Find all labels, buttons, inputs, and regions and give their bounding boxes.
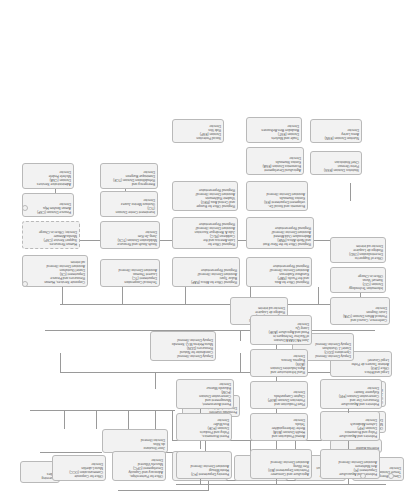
- node-line: Development (OPC): [115, 466, 163, 470]
- node-aga[interactable]: Animal Production and Health Division (A…: [250, 413, 308, 441]
- node-fir[interactable]: Fisheries and Aquaculture Resources Use …: [320, 379, 382, 409]
- node-csa[interactable]: Administrative Services Division (CSA) M…: [22, 163, 74, 189]
- node-title: Assistant Director-General/: [175, 226, 235, 230]
- node-title: Director: [175, 124, 221, 128]
- node-name: Boubaker Ben-Belhassen: [249, 128, 299, 132]
- node-ddg-natural-resources[interactable]: Deputy Director-General Coordinator for …: [150, 331, 216, 361]
- node-line: Regional Office for Europe: [175, 204, 235, 208]
- node-osd[interactable]: Office of Support to Decentralization (O…: [330, 237, 386, 263]
- node-ags[interactable]: Rural Infrastructure and Agro-Industries…: [250, 349, 308, 377]
- node-line: Fisheries and Aquaculture: [323, 434, 377, 438]
- node-line: Regional Office for Asia: [249, 280, 309, 284]
- connector: [122, 287, 123, 305]
- node-rap[interactable]: Regional Office for Asia and the Pacific…: [246, 257, 312, 287]
- node-line: Agro-Industries Division: [253, 366, 305, 370]
- node-tcs[interactable]: South-South and Resource Mobilization Di…: [100, 221, 160, 249]
- node-title: Director-General: [105, 438, 165, 442]
- node-line: Regional Office for Africa (RAF): [175, 280, 237, 284]
- node-fi-department[interactable]: Fisheries and Aquaculture Department (FI…: [320, 449, 380, 479]
- connector: [185, 287, 186, 305]
- node-title: Regional Representative: [175, 188, 235, 192]
- node-title: Director: [313, 128, 359, 132]
- node-name: Eduardo Mansur: [179, 386, 231, 390]
- node-fom[interactable]: Forest Assessment, Management and Conser…: [176, 379, 234, 409]
- node-line: Fisheries and Aquaculture: [323, 472, 377, 476]
- node-foe[interactable]: Forest Economics, Policy and Products Di…: [176, 413, 232, 441]
- node-esp[interactable]: Social Protection Division (ESP) Rob Vos…: [172, 119, 224, 143]
- node-title: Assistant Director-General: [179, 464, 229, 468]
- connector: [60, 353, 61, 373]
- node-title: Director: [179, 418, 229, 422]
- node-cio[interactable]: Information Technology Division (CIO) Sa…: [330, 267, 386, 293]
- node-rlc[interactable]: Regional Office for Latin America and th…: [172, 217, 238, 249]
- node-title: Regional Representative: [249, 264, 309, 268]
- node-line: Legal and Ethics: [333, 370, 389, 374]
- connector: [240, 353, 241, 373]
- node-ag-department[interactable]: Agriculture and Consumer Protection Depa…: [250, 449, 312, 479]
- node-line: velopment Department (ES): [249, 200, 305, 204]
- node-line: Resources Use and: [323, 398, 379, 402]
- node-director-general[interactable]: Jose Graziano da Silva Director-General: [102, 429, 168, 453]
- node-est[interactable]: Trade and Markets Division (EST) Boubake…: [246, 117, 302, 143]
- node-line: Protocol Affairs Division (CPA): [333, 314, 387, 318]
- node-name: Lahsen Ababouch: [323, 422, 377, 426]
- node-line: Agriculture and Consumer: [253, 472, 309, 476]
- connector: [318, 287, 319, 305]
- node-line: of Nuclear Techniques in: [253, 334, 309, 338]
- node-tce[interactable]: Emergency and Rehabilitation Division (T…: [100, 163, 158, 189]
- node-raf[interactable]: Regional Office for Africa (RAF) Bukar T…: [172, 257, 240, 287]
- node-title: Regional Representative: [175, 268, 237, 272]
- node-line: and North Africa (RNE): [249, 238, 311, 242]
- node-opc[interactable]: Office for Partnerships, Advocacy and Ca…: [112, 451, 166, 481]
- node-line: Latin America and the: [175, 238, 235, 242]
- node-line: Nutrition Division (ESN): [313, 136, 359, 140]
- node-name: Laurent Thomas: [103, 272, 157, 276]
- node-reu[interactable]: Regional Office for Europe and Central A…: [172, 181, 238, 211]
- node-tc-department[interactable]: Technical Cooperation Department (TC) La…: [100, 259, 160, 287]
- node-line: Office of Support to: [333, 256, 383, 260]
- connector: [155, 373, 156, 389]
- node-line: Investment Centre Division: [103, 210, 155, 214]
- node-cpa[interactable]: Conference, Council and Protocol Affairs…: [330, 297, 390, 325]
- node-title: Director: [103, 230, 157, 234]
- node-line: South-South and Resource: [103, 242, 157, 246]
- node-line: Resources and Finance: [25, 276, 85, 280]
- connector: [30, 410, 175, 411]
- node-line: Communication (OCC): [55, 470, 103, 474]
- node-fip[interactable]: Fisheries and Aquaculture Policy and Eco…: [320, 411, 380, 441]
- node-name: Rodrigo de Laquiere: [333, 248, 383, 252]
- node-csp[interactable]: Human Resources Support Service (CSP) Mo…: [22, 221, 80, 249]
- node-agp[interactable]: Plant Production and Protection Division…: [250, 381, 308, 409]
- node-title: Regional Representative: [249, 226, 311, 230]
- node-title: Assistant Director-General/: [175, 192, 235, 196]
- node-ess[interactable]: Statistics Division (ESS) Pietro Gennari…: [310, 151, 362, 175]
- node-title: Deputy Director-General: [153, 338, 213, 342]
- node-esn[interactable]: Nutrition Division (ESN) Anna Lartey Dir…: [310, 119, 362, 143]
- node-name: Rodrigo de Laquiere: [233, 310, 285, 314]
- node-name: Clayton Campanhola: [253, 394, 305, 398]
- node-line: Office for Corporate: [55, 474, 103, 478]
- node-tci[interactable]: Investment Centre Division (TCI) Gustavo…: [100, 191, 158, 217]
- node-line: and the Pacific (RAP): [249, 276, 309, 280]
- node-esa[interactable]: Agricultural Development Economics Divis…: [246, 147, 304, 175]
- node-line: Finance Division (CSF): [25, 210, 71, 214]
- node-line: Agricultural Development: [249, 168, 301, 172]
- node-title: Director ad interim: [233, 306, 285, 310]
- node-csf[interactable]: Finance Division (CSF) Aiman Ibrahim Hij…: [22, 193, 74, 217]
- node-es-department[interactable]: Economic and Social De- velopment Depart…: [246, 181, 308, 211]
- node-name: Gustavo Merino Juarez: [103, 202, 155, 206]
- node-line: Social Protection: [175, 136, 221, 140]
- connector: [60, 304, 360, 305]
- node-cs-department[interactable]: Corporate Services, Human Resources and …: [22, 255, 88, 287]
- node-name: Samuel Varas: [333, 278, 383, 282]
- node-fo-department[interactable]: Forestry Department (FO) Hiroto Mitsugi …: [176, 451, 232, 479]
- node-line: Management and: [179, 398, 231, 402]
- node-title: Assistant Director-General: [249, 192, 305, 196]
- node-rne[interactable]: Regional Office for the Near East and No…: [246, 217, 314, 249]
- node-title: Director: [253, 354, 305, 358]
- node-occ[interactable]: Office for Corporate Communication (OCC)…: [52, 455, 106, 481]
- node-name: Berhe Gebreegziabher: [253, 426, 305, 430]
- node-line: Jose Graziano: [105, 446, 165, 450]
- node-line: Rehabilitation Division (TCE): [103, 178, 155, 182]
- node-age[interactable]: Joint FAO/IAEA Division of Nuclear Techn…: [250, 315, 312, 345]
